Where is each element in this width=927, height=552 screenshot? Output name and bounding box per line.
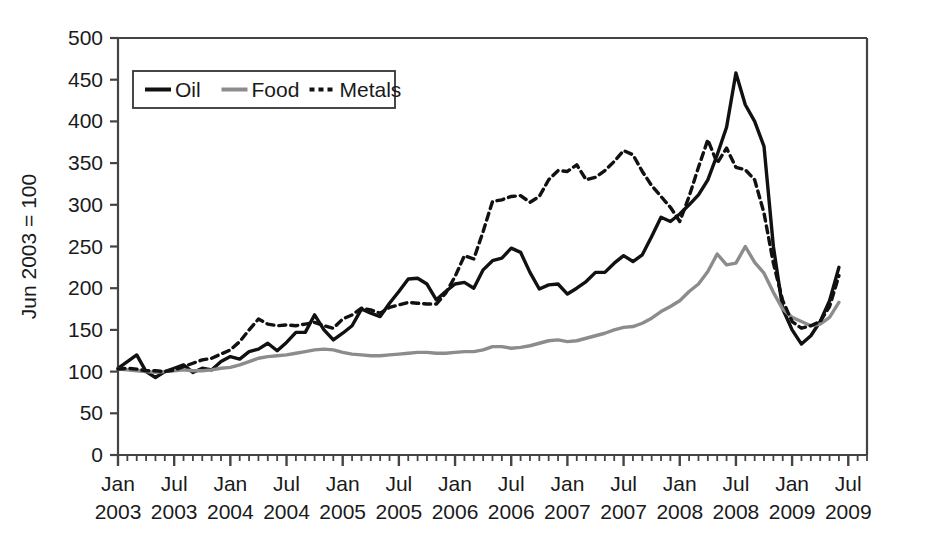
series-line-oil xyxy=(118,73,839,377)
y-axis-ticks: 050100150200250300350400450500 xyxy=(68,26,118,466)
legend-label-food: Food xyxy=(252,78,300,101)
x-tick-label-year: 2007 xyxy=(544,500,591,523)
x-tick-label-year: 2005 xyxy=(376,500,423,523)
x-tick-label-month: Jan xyxy=(438,472,472,495)
y-tick-label: 50 xyxy=(80,401,103,424)
x-tick-label-year: 2009 xyxy=(769,500,816,523)
x-tick-label-month: Jan xyxy=(326,472,360,495)
x-tick-label-month: Jul xyxy=(610,472,637,495)
legend-label-metals: Metals xyxy=(340,78,402,101)
y-tick-label: 350 xyxy=(68,151,103,174)
x-tick-label-year: 2005 xyxy=(319,500,366,523)
x-tick-label-month: Jan xyxy=(213,472,247,495)
x-tick-label-month: Jul xyxy=(161,472,188,495)
series-line-metals xyxy=(118,140,839,372)
x-tick-label-year: 2003 xyxy=(95,500,142,523)
x-tick-label-month: Jul xyxy=(273,472,300,495)
y-tick-label: 400 xyxy=(68,109,103,132)
x-tick-label-month: Jan xyxy=(550,472,584,495)
legend-label-oil: Oil xyxy=(175,78,201,101)
chart-container: Jun 2003 = 100 0501001502002503003504004… xyxy=(0,0,927,552)
x-tick-label-month: Jul xyxy=(722,472,749,495)
x-axis-ticks: Jan2003Jul2003Jan2004Jul2004Jan2005Jul20… xyxy=(95,455,872,523)
y-tick-label: 500 xyxy=(68,26,103,49)
x-tick-label-month: Jul xyxy=(385,472,412,495)
x-tick-label-year: 2004 xyxy=(263,500,310,523)
x-tick-label-year: 2009 xyxy=(825,500,872,523)
x-tick-label-month: Jan xyxy=(775,472,809,495)
x-tick-label-month: Jul xyxy=(835,472,862,495)
x-tick-label-month: Jan xyxy=(663,472,697,495)
line-chart: Jun 2003 = 100 0501001502002503003504004… xyxy=(0,0,927,552)
x-tick-label-month: Jan xyxy=(101,472,135,495)
chart-legend: OilFoodMetals xyxy=(133,71,401,108)
x-tick-label-year: 2006 xyxy=(488,500,535,523)
y-axis-label: Jun 2003 = 100 xyxy=(17,174,40,319)
x-tick-label-year: 2006 xyxy=(432,500,479,523)
x-tick-label-year: 2008 xyxy=(656,500,703,523)
y-tick-label: 250 xyxy=(68,235,103,258)
y-axis-title: Jun 2003 = 100 xyxy=(17,174,40,319)
y-tick-label: 300 xyxy=(68,193,103,216)
x-tick-label-month: Jul xyxy=(498,472,525,495)
x-tick-label-year: 2008 xyxy=(713,500,760,523)
y-tick-label: 0 xyxy=(91,443,103,466)
x-tick-label-year: 2004 xyxy=(207,500,254,523)
data-series xyxy=(118,73,839,377)
x-tick-label-year: 2007 xyxy=(600,500,647,523)
x-tick-label-year: 2003 xyxy=(151,500,198,523)
y-tick-label: 200 xyxy=(68,276,103,299)
y-tick-label: 100 xyxy=(68,360,103,383)
y-tick-label: 450 xyxy=(68,68,103,91)
y-tick-label: 150 xyxy=(68,318,103,341)
